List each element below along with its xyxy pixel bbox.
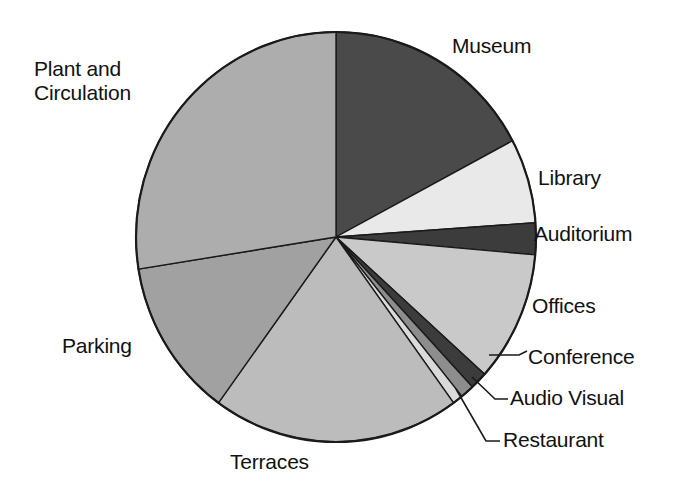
slice-label-restaurant: Restaurant	[503, 428, 604, 452]
slice-label-terraces: Terraces	[230, 450, 309, 474]
slice-label-library: Library	[538, 166, 601, 190]
slice-label-parking: Parking	[62, 334, 132, 358]
slice-label-plant-line2: Circulation	[34, 81, 131, 104]
slice-label-conference: Conference	[528, 345, 635, 369]
pie-chart-figure: Museum Library Auditorium Offices Confer…	[0, 0, 698, 497]
slice-label-audio-visual: Audio Visual	[510, 386, 624, 410]
slice-label-museum: Museum	[452, 34, 531, 58]
slice-label-auditorium: Auditorium	[534, 222, 632, 246]
slice-label-plant-line1: Plant and	[34, 57, 121, 80]
slice-label-offices: Offices	[532, 294, 596, 318]
slice-label-plant-and-circulation: Plant and Circulation	[34, 57, 194, 104]
